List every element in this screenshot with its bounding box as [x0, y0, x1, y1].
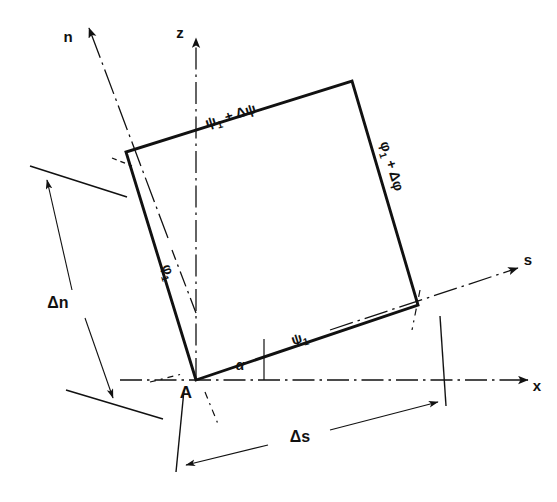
delta-n-extension-upper [30, 166, 127, 197]
figure-root: z x n s A α ψ1 + Δψ ψ1 φ1 [0, 0, 557, 502]
axis-line-A-lower-stub [205, 392, 218, 424]
geometry-diagram: z x n s A α ψ1 + Δψ ψ1 φ1 [0, 0, 557, 502]
axis-line-n-lower [172, 250, 196, 313]
vertex-label-a: A [180, 383, 192, 402]
delta-n-arrow-lower [85, 318, 113, 398]
edge-label-right: φ1 + Δφ [374, 139, 407, 193]
axis-label-x: x [533, 377, 542, 394]
axis-label-z: z [176, 24, 184, 41]
axis-line-s [330, 268, 518, 330]
axis-label-n: n [63, 28, 72, 45]
axis-label-s: s [524, 251, 532, 268]
delta-n-extension-lower [66, 390, 163, 419]
edge-label-top: ψ1 + Δψ [203, 100, 259, 134]
edge-top-suffix: + Δψ [219, 100, 258, 126]
axes-group [89, 28, 528, 424]
dimension-delta-s [176, 316, 446, 472]
dimension-label-delta-s: Δs [290, 428, 311, 445]
dimension-label-delta-n: Δn [47, 294, 68, 311]
element-polygon [126, 81, 418, 380]
delta-s-arrow-left [186, 445, 268, 465]
svg-text:φ1 + Δφ: φ1 + Δφ [374, 139, 407, 193]
svg-text:ψ1 + Δψ: ψ1 + Δψ [203, 100, 259, 134]
angle-label-alpha: α [236, 357, 246, 373]
differential-element-outline [126, 81, 418, 380]
delta-n-arrow-upper [47, 180, 72, 290]
edge-right-suffix: + Δφ [382, 154, 408, 193]
delta-s-extension-right [440, 316, 446, 406]
axis-line-A-left-stub [150, 374, 182, 382]
delta-s-extension-left [176, 390, 184, 472]
delta-s-arrow-right [330, 402, 438, 430]
axis-line-n [89, 28, 168, 238]
